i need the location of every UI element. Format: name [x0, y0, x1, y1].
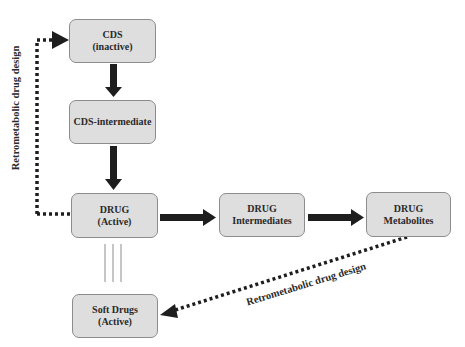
node-cds-intermediate-title: CDS-intermediate: [74, 116, 152, 128]
arrow-cds-to-cds-intermediate: [105, 64, 122, 97]
node-drug-active: DRUG (Active): [71, 193, 158, 238]
node-drug-active-subtitle: (Active): [98, 216, 132, 228]
label-retrometabolic-vertical: Retrometabolic drug design: [10, 46, 21, 171]
node-drug-metabolites-subtitle: Metabolites: [384, 215, 434, 227]
node-soft-drugs-title: Soft Drugs: [92, 304, 138, 316]
node-soft-drugs-subtitle: (Active): [98, 316, 132, 328]
node-cds-subtitle: (inactive): [93, 41, 133, 53]
node-drug-intermediates-subtitle: Intermediates: [232, 215, 291, 227]
triple-line-drug-to-soft-drugs: [105, 244, 121, 282]
node-drug-metabolites: DRUG Metabolites: [366, 192, 451, 237]
node-drug-metabolites-title: DRUG: [394, 203, 423, 215]
node-drug-intermediates: DRUG Intermediates: [219, 193, 305, 237]
dotted-arrow-drug-to-cds: [37, 31, 70, 214]
arrow-drug-to-intermediates: [160, 209, 216, 226]
node-drug-active-title: DRUG: [100, 204, 129, 216]
node-drug-intermediates-title: DRUG: [247, 203, 276, 215]
node-cds-intermediate: CDS-intermediate: [69, 100, 156, 144]
arrow-intermediates-to-metabolites: [308, 209, 364, 226]
node-cds-inactive: CDS (inactive): [69, 19, 156, 63]
node-soft-drugs-active: Soft Drugs (Active): [72, 294, 158, 338]
dotted-arrow-metabolites-to-soft-drugs: [160, 237, 407, 318]
arrow-cds-intermediate-to-drug: [105, 146, 122, 190]
node-cds-title: CDS: [102, 29, 122, 41]
